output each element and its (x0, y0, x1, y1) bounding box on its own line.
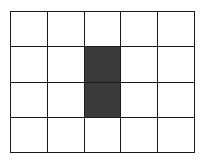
grid-cell (121, 83, 158, 118)
grid-cell-filled (85, 83, 122, 118)
grid-cell-filled (85, 47, 122, 82)
grid-cell (11, 118, 48, 153)
grid-cell (11, 47, 48, 82)
grid-cell (158, 118, 195, 153)
grid-cell (121, 118, 158, 153)
grid-cell (48, 83, 85, 118)
grid-cell (11, 83, 48, 118)
grid-cell (85, 12, 122, 47)
cell-grid (10, 11, 195, 153)
grid-cell (121, 12, 158, 47)
grid-cell (11, 12, 48, 47)
grid-cell (85, 118, 122, 153)
grid-cell (48, 12, 85, 47)
grid-cell (158, 83, 195, 118)
grid-cell (158, 47, 195, 82)
grid-cell (121, 47, 158, 82)
grid-cell (158, 12, 195, 47)
diagram-canvas (0, 0, 208, 162)
grid-cell (48, 47, 85, 82)
grid-cell (48, 118, 85, 153)
